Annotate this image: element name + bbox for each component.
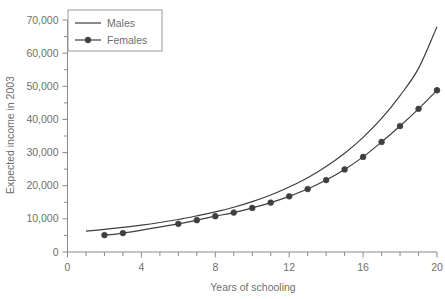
y-tick-label: 10,000: [26, 212, 58, 224]
data-point-marker: [194, 217, 200, 223]
y-tick-label: 30,000: [26, 146, 58, 158]
income-by-schooling-line-chart: 010,00020,00030,00040,00050,00060,00070,…: [0, 0, 445, 299]
x-axis-title: Years of schooling: [210, 281, 296, 293]
legend-label: Males: [107, 17, 135, 29]
data-point-marker: [102, 232, 108, 238]
y-tick-label: 40,000: [26, 113, 58, 125]
x-tick-label: 12: [283, 261, 295, 273]
data-point-marker: [434, 87, 440, 93]
y-tick-label: 20,000: [26, 179, 58, 191]
data-point-marker: [323, 177, 329, 183]
x-tick-label: 8: [212, 261, 218, 273]
data-point-marker: [286, 193, 292, 199]
y-tick-label: 70,000: [26, 14, 58, 26]
data-point-marker: [212, 213, 218, 219]
data-point-marker: [416, 106, 422, 112]
plot-background: [0, 0, 445, 299]
data-point-marker: [342, 167, 348, 173]
data-point-marker: [231, 210, 237, 216]
x-tick-label: 16: [357, 261, 369, 273]
legend-swatch-marker: [85, 37, 91, 43]
x-tick-label: 20: [431, 261, 443, 273]
data-point-marker: [397, 123, 403, 129]
data-point-marker: [175, 221, 181, 227]
data-point-marker: [360, 154, 366, 160]
data-point-marker: [268, 200, 274, 206]
data-point-marker: [120, 230, 126, 236]
legend-label: Females: [107, 34, 147, 46]
data-point-marker: [379, 139, 385, 145]
chart-container: 010,00020,00030,00040,00050,00060,00070,…: [0, 0, 445, 299]
y-tick-label: 0: [53, 246, 59, 258]
data-point-marker: [305, 186, 311, 192]
x-tick-label: 0: [65, 261, 71, 273]
x-tick-label: 4: [138, 261, 144, 273]
chart-legend: MalesFemales: [68, 10, 162, 51]
data-point-marker: [249, 205, 255, 211]
y-axis-title: Expected income in 2003: [4, 76, 16, 194]
y-tick-label: 60,000: [26, 47, 58, 59]
y-tick-label: 50,000: [26, 80, 58, 92]
